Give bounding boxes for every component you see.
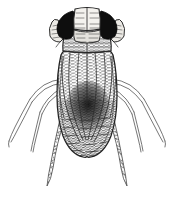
illustration-canvas: Insect dorsal view engraving	[0, 0, 174, 200]
insect-engraving	[0, 0, 174, 200]
face-clypeus	[74, 30, 101, 43]
